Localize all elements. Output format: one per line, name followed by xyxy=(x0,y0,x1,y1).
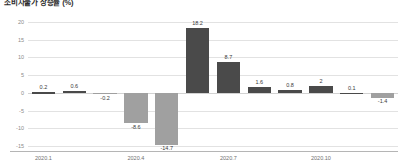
bar-slot: -1.4 xyxy=(367,22,398,146)
y-axis-tick-label: 10 xyxy=(18,54,24,60)
bar-value-label: -8.6 xyxy=(121,124,152,130)
bar-slot: -8.6 xyxy=(121,22,152,146)
bar xyxy=(278,90,301,93)
bar xyxy=(32,92,55,94)
bar xyxy=(186,28,209,92)
bar xyxy=(309,86,332,93)
bar xyxy=(63,91,86,93)
bar-slot: 0.1 xyxy=(336,22,367,146)
bar-slot: 18.2 xyxy=(182,22,213,146)
bar-value-label: 0.1 xyxy=(336,85,367,91)
bar-value-label: 0.2 xyxy=(28,84,59,90)
y-axis-tick-label: 0 xyxy=(21,90,24,96)
bar-value-label: 18.2 xyxy=(182,20,213,26)
x-axis-tick-label: 2020.4 xyxy=(127,155,144,161)
bar-chart: 소비자물가 상승률 (%) 20151050-5-10-15 0.20.6-0.… xyxy=(0,0,405,168)
gridline xyxy=(28,146,398,147)
bar-value-label: -0.2 xyxy=(90,95,121,101)
bar xyxy=(340,93,363,95)
bar xyxy=(217,62,240,93)
bar xyxy=(371,93,394,98)
y-axis-tick-label: 20 xyxy=(18,19,24,25)
bar-slot: 1.6 xyxy=(244,22,275,146)
bar-value-label: 8.7 xyxy=(213,54,244,60)
y-axis-tick-label: -10 xyxy=(16,125,24,131)
bar xyxy=(124,93,147,123)
bar-value-label: 0.8 xyxy=(275,82,306,88)
y-axis-tick-label: 15 xyxy=(18,37,24,43)
bar-slot: 0.2 xyxy=(28,22,59,146)
bar-value-label: 2 xyxy=(306,78,337,84)
y-axis-tick-label: 5 xyxy=(21,72,24,78)
bar xyxy=(248,87,271,93)
bar-slot: -14.7 xyxy=(151,22,182,146)
chart-title: 소비자물가 상승률 (%) xyxy=(4,0,73,7)
bar-value-label: -1.4 xyxy=(367,98,398,104)
bar xyxy=(155,93,178,145)
bar-slot: -0.2 xyxy=(90,22,121,146)
y-axis-tick-label: -5 xyxy=(19,108,24,114)
bar-slot: 8.7 xyxy=(213,22,244,146)
x-axis-tick-label: 2020.7 xyxy=(220,155,237,161)
plot-area: 20151050-5-10-15 0.20.6-0.2-8.6-14.718.2… xyxy=(28,22,398,146)
bar-slot: 0.6 xyxy=(59,22,90,146)
y-axis-tick-label: -15 xyxy=(16,143,24,149)
bar-value-label: 0.6 xyxy=(59,83,90,89)
x-axis-tick-label: 2020.1 xyxy=(35,155,52,161)
bar-value-label: 1.6 xyxy=(244,79,275,85)
x-axis-tick-label: 2020.10 xyxy=(311,155,331,161)
bar-slot: 2 xyxy=(306,22,337,146)
x-axis-line xyxy=(10,151,398,152)
bar-slot: 0.8 xyxy=(275,22,306,146)
